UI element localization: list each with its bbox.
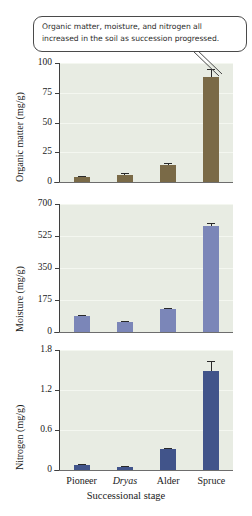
bar <box>160 449 176 470</box>
y-tick-label: 1.8 <box>14 344 52 354</box>
y-tick <box>55 430 59 431</box>
bar <box>203 371 219 470</box>
error-bar-stem <box>211 361 212 370</box>
y-tick <box>55 350 59 351</box>
y-tick <box>55 470 59 471</box>
callout-text: Organic matter, moisture, and nitrogen a… <box>42 22 219 43</box>
error-bar-cap <box>164 448 172 449</box>
gridline <box>60 350 233 351</box>
x-axis-nitrogen <box>54 470 233 471</box>
y-axis-title-nitrogen: Nitrogen (mg/g) <box>14 405 25 470</box>
bar <box>74 465 90 470</box>
bar <box>117 467 133 470</box>
callout-annotation: Organic matter, moisture, and nitrogen a… <box>33 16 247 52</box>
figure-root: Organic matter, moisture, and nitrogen a… <box>0 0 252 516</box>
y-tick <box>55 390 59 391</box>
x-tick-label: Spruce <box>181 475 241 486</box>
error-bar <box>78 464 86 465</box>
error-bar-cap <box>121 466 129 467</box>
error-bar <box>207 361 215 370</box>
y-tick-label: 1.2 <box>14 384 52 394</box>
error-bar <box>164 448 172 449</box>
y-axis-nitrogen <box>59 350 60 471</box>
error-bar-cap <box>78 464 86 465</box>
error-bar-cap <box>207 361 215 362</box>
error-bar <box>121 466 129 467</box>
x-axis-title: Successional stage <box>0 490 252 501</box>
